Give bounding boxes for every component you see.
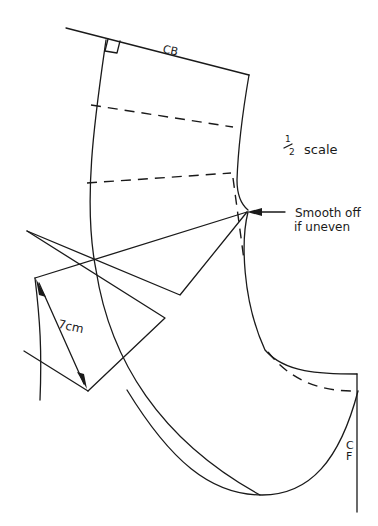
left-vertical-line bbox=[35, 278, 41, 400]
pointer-arrowhead-icon bbox=[247, 208, 262, 216]
hem-curve bbox=[127, 390, 358, 495]
scale-denominator: 2 bbox=[289, 147, 295, 157]
label-cb: CB bbox=[162, 43, 180, 59]
dashed-seam-near-point bbox=[233, 178, 244, 260]
construction-line-long bbox=[35, 212, 247, 278]
front-neck-curve bbox=[244, 212, 357, 374]
note-line-2: if uneven bbox=[294, 220, 350, 234]
scale-numerator: 1 bbox=[285, 134, 291, 144]
inner-right-curve bbox=[237, 75, 249, 210]
dashed-line-2 bbox=[87, 173, 231, 183]
arrowhead-bottom-icon bbox=[77, 372, 87, 389]
scale-label: scale bbox=[304, 142, 338, 157]
construction-line-upper bbox=[27, 212, 247, 295]
center-back-line bbox=[66, 28, 249, 75]
dashed-line-1 bbox=[91, 105, 233, 127]
pattern-diagram: CB 1 2 scale Smooth off if uneven 7cm C … bbox=[0, 0, 378, 526]
label-cf-f: F bbox=[346, 450, 352, 463]
construction-line-diag bbox=[27, 231, 165, 391]
note-line-1: Smooth off bbox=[295, 206, 361, 220]
